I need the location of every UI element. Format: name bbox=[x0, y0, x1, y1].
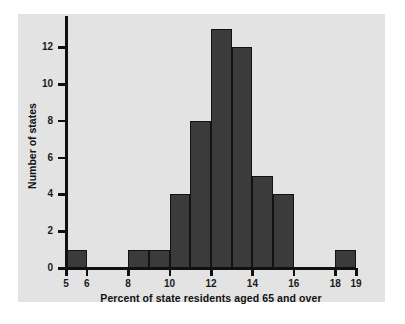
y-axis-tick bbox=[58, 193, 66, 196]
histogram-bar bbox=[170, 194, 191, 268]
histogram-bar bbox=[252, 176, 273, 268]
histogram-figure: 024681012 568101214161819 Percent of sta… bbox=[0, 0, 405, 324]
y-axis-tick bbox=[58, 46, 66, 49]
x-axis-tick bbox=[127, 268, 130, 276]
plot-area bbox=[66, 18, 385, 268]
x-axis-tick-label: 14 bbox=[237, 278, 267, 289]
y-axis-label: Number of states bbox=[26, 86, 38, 206]
x-axis-tick-label: 12 bbox=[196, 278, 226, 289]
x-axis-tick bbox=[293, 268, 296, 276]
y-axis-tick-label: 2 bbox=[13, 226, 53, 236]
histogram-bar bbox=[128, 250, 149, 268]
y-axis-tick-label: 0 bbox=[13, 263, 53, 273]
histogram-bar bbox=[335, 250, 356, 268]
x-axis-label: Percent of state residents aged 65 and o… bbox=[66, 292, 356, 304]
histogram-bar bbox=[149, 250, 170, 268]
x-axis-tick bbox=[334, 268, 337, 276]
x-axis-tick-label: 16 bbox=[279, 278, 309, 289]
histogram-bar bbox=[273, 194, 294, 268]
x-axis-tick-label: 8 bbox=[113, 278, 143, 289]
x-axis-tick bbox=[65, 268, 68, 276]
y-axis-tick bbox=[58, 120, 66, 123]
y-axis-tick bbox=[58, 230, 66, 233]
x-axis-tick-label: 19 bbox=[341, 278, 371, 289]
histogram-bar bbox=[232, 47, 253, 268]
histogram-bar bbox=[190, 121, 211, 268]
x-axis-tick bbox=[355, 268, 358, 276]
x-axis-tick-label: 10 bbox=[155, 278, 185, 289]
x-axis-tick bbox=[251, 268, 254, 276]
y-axis-tick-label: 12 bbox=[13, 42, 53, 52]
y-axis-tick bbox=[58, 83, 66, 86]
x-axis-tick bbox=[169, 268, 172, 276]
x-axis-tick bbox=[86, 268, 89, 276]
histogram-bar bbox=[211, 29, 232, 268]
x-axis-tick-label: 6 bbox=[72, 278, 102, 289]
x-axis-tick bbox=[210, 268, 213, 276]
y-axis-tick bbox=[58, 157, 66, 160]
histogram-bar bbox=[66, 250, 87, 268]
